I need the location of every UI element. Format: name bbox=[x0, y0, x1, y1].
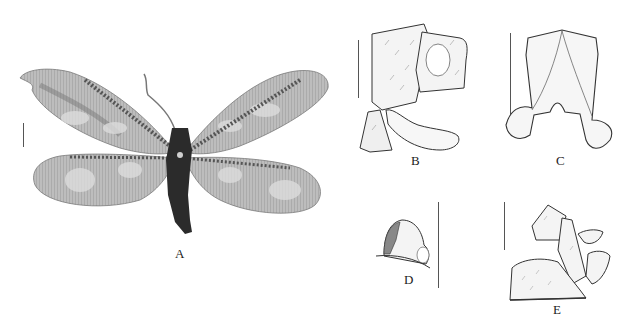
insect-habitus-image bbox=[0, 0, 330, 324]
male-genital-dorsal-drawing bbox=[490, 0, 643, 170]
female-terminalia-lateral-drawing bbox=[500, 190, 643, 324]
panel-label-b: B bbox=[411, 153, 420, 169]
panel-a: A bbox=[0, 0, 330, 324]
panel-d: D bbox=[370, 200, 450, 300]
panel-e: E bbox=[500, 190, 643, 324]
panel-b: B bbox=[340, 0, 490, 170]
male-terminalia-lateral-drawing bbox=[340, 0, 490, 170]
panel-label-a: A bbox=[175, 246, 184, 262]
panel-label-c: C bbox=[556, 153, 565, 169]
panel-label-e: E bbox=[553, 302, 561, 318]
panel-c: C bbox=[490, 0, 643, 170]
panel-label-d: D bbox=[404, 272, 413, 288]
